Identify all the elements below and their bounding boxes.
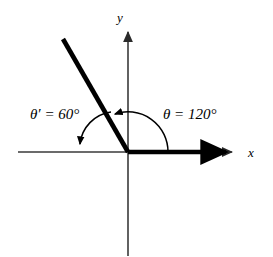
theta-label: θ = 120° <box>163 106 217 122</box>
x-axis-label: x <box>247 145 254 160</box>
figure-canvas: y x θ′ = 60° θ = 120° <box>0 0 273 257</box>
figure-background <box>0 0 273 257</box>
y-axis-label: y <box>115 10 123 25</box>
theta-prime-label: θ′ = 60° <box>30 106 79 122</box>
angle-diagram-figure: y x θ′ = 60° θ = 120° <box>0 0 273 257</box>
